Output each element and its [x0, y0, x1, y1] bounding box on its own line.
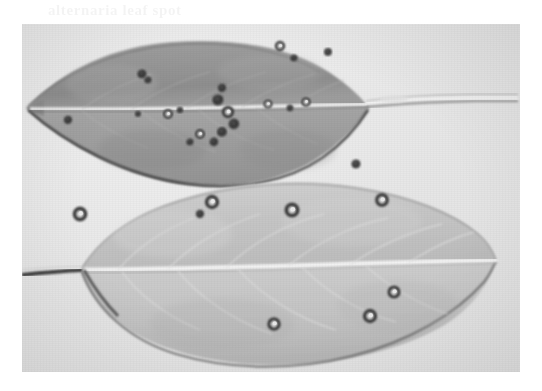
leaf-photograph — [22, 24, 520, 372]
bleed-through-text: alternaria leaf spot — [48, 3, 468, 21]
photo-vignette — [22, 24, 520, 372]
page-root: alternaria leaf spot leaf spot disease — [0, 0, 542, 391]
